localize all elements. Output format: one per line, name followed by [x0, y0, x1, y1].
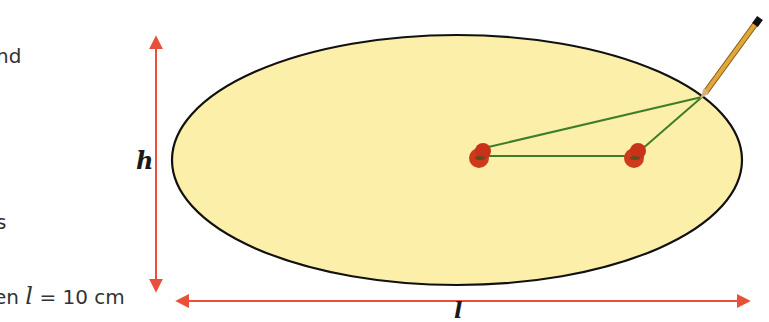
height-label: h	[136, 146, 153, 175]
length-label: l	[454, 297, 462, 322]
pencil-icon	[700, 18, 760, 99]
ellipse-shape	[172, 35, 742, 285]
